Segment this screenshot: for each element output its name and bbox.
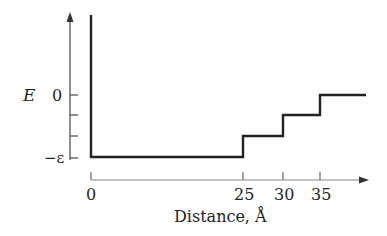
x-tick-label-0: 0: [86, 185, 96, 204]
x-axis-arrow-icon: [359, 177, 369, 184]
potential-curve: [91, 15, 366, 157]
y-tick-label-min: −ε: [44, 149, 65, 167]
x-tick-label-30: 30: [274, 185, 294, 204]
x-axis-label: Distance, Å: [174, 206, 267, 226]
y-axis-arrow-icon: [67, 12, 74, 22]
x-tick-label-25: 25: [234, 185, 254, 204]
potential-energy-chart: E 0 −ε 0 25 30 35 Distance, Å: [0, 0, 387, 236]
y-axis-label: E: [22, 85, 36, 105]
x-tick-label-35: 35: [311, 185, 331, 204]
y-tick-label-0: 0: [52, 86, 62, 105]
